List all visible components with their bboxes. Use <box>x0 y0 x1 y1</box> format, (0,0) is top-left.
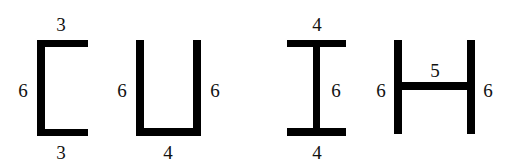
i-top-label: 4 <box>312 15 322 34</box>
c-left-bar <box>37 40 45 136</box>
c-top-label: 3 <box>56 15 66 34</box>
u-right-bar <box>193 40 201 136</box>
i-middle-label: 6 <box>331 81 341 100</box>
h-right-label: 6 <box>483 81 493 100</box>
u-bottom-bar <box>136 128 201 136</box>
i-stem <box>313 40 320 136</box>
u-right-label: 6 <box>210 81 220 100</box>
c-bottom-label: 3 <box>56 143 66 162</box>
h-left-label: 6 <box>376 81 386 100</box>
letter-shapes-diagram: 3 6 3 6 6 4 4 6 4 6 5 6 <box>0 0 508 161</box>
h-crossbar <box>394 82 475 90</box>
i-bottom-label: 4 <box>312 143 322 162</box>
h-middle-label: 5 <box>430 61 440 80</box>
u-left-label: 6 <box>117 81 127 100</box>
u-bottom-label: 4 <box>163 143 173 162</box>
c-bottom-bar <box>37 129 88 136</box>
i-bottom-bar <box>287 128 346 136</box>
c-left-label: 6 <box>18 81 28 100</box>
u-left-bar <box>136 40 144 136</box>
c-top-bar <box>37 40 88 47</box>
